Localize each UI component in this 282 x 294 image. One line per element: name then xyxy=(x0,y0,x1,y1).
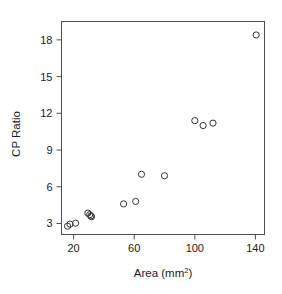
x-tick-label: 100 xyxy=(186,242,204,254)
scatter-plot-figure: 2060100140 369121518 Area (mm2) CP Ratio xyxy=(0,0,282,294)
y-tick-label: 12 xyxy=(40,107,52,119)
x-tick-label: 60 xyxy=(128,242,140,254)
y-tick-label: 15 xyxy=(40,71,52,83)
y-tick-label: 9 xyxy=(46,144,52,156)
y-tick-label: 18 xyxy=(40,34,52,46)
y-tick-label: 6 xyxy=(46,181,52,193)
x-tick-label: 20 xyxy=(67,242,79,254)
y-tick-label: 3 xyxy=(46,217,52,229)
chart-canvas: 2060100140 369121518 Area (mm2) CP Ratio xyxy=(0,0,282,294)
x-tick-label: 140 xyxy=(246,242,264,254)
y-axis-title: CP Ratio xyxy=(10,111,22,157)
x-axis-title: Area (mm2) xyxy=(134,266,193,279)
